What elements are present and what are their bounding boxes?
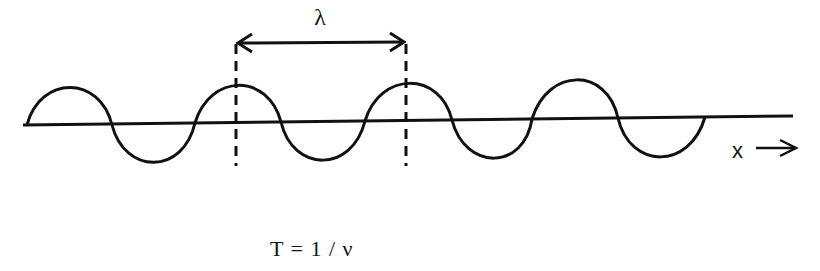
period-formula: T = 1 / ν [270,236,354,262]
wave-curve [27,80,705,162]
x-axis-label: x [732,138,743,164]
x-axis-line [23,116,793,125]
x-direction-arrow-icon [756,140,796,156]
wave-diagram [0,0,820,271]
wavelength-arrow [238,33,404,52]
wavelength-label: λ [300,4,340,31]
